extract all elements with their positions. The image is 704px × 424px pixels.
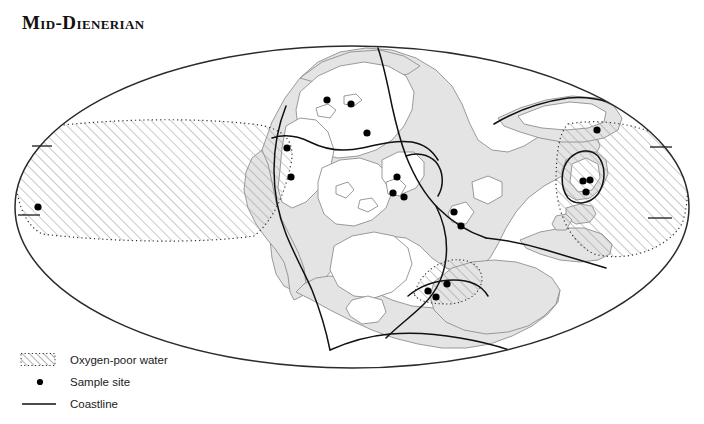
sample-site-dot [34, 203, 41, 210]
sample-site-dot [389, 189, 396, 196]
sample-site-dot [287, 173, 294, 180]
sample-site-dot [443, 280, 450, 287]
sample-site-dot [424, 287, 431, 294]
sample-site-dot [393, 173, 400, 180]
figure-root: Mid-Dienerian [0, 0, 704, 424]
legend: Oxygen-poor water Sample site Coastline [20, 352, 230, 418]
anoxic-region-tethys-east-wedge [556, 122, 687, 257]
sample-site-dot [593, 126, 600, 133]
sample-site-dot [347, 100, 354, 107]
legend-label-coastline: Coastline [70, 397, 118, 412]
sample-site-dot [363, 129, 370, 136]
legend-label-oxygen-poor-water: Oxygen-poor water [70, 353, 168, 368]
legend-label-sample-site: Sample site [70, 375, 130, 390]
legend-item-oxygen-poor-water: Oxygen-poor water [20, 352, 230, 370]
sample-site-dot [283, 144, 290, 151]
coastline-line-icon [20, 396, 58, 412]
oxygen-poor-water-swatch-icon [20, 352, 58, 368]
sample-site-dot [450, 208, 457, 215]
sample-site-dot [323, 96, 330, 103]
legend-item-coastline: Coastline [20, 396, 230, 414]
sample-site-dot [432, 293, 439, 300]
sample-site-dot-icon [20, 374, 58, 390]
anoxic-region-panthalassa-west-lens [16, 120, 292, 241]
sample-site-dot [582, 188, 589, 195]
legend-item-sample-site: Sample site [20, 374, 230, 392]
sample-site-dot [400, 193, 407, 200]
sample-site-dot [579, 177, 586, 184]
sample-site-dot [457, 222, 464, 229]
sample-site-dot [586, 176, 593, 183]
